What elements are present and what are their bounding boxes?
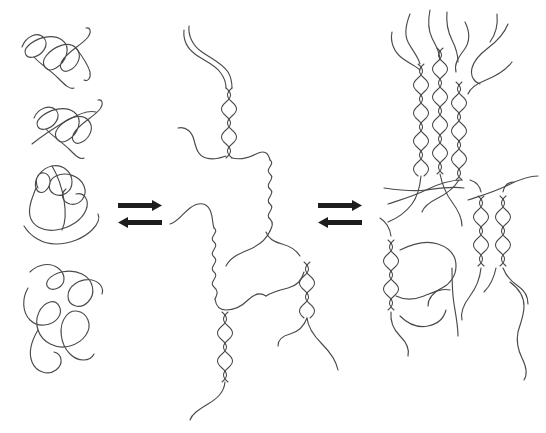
helical-bundle-strand-5 bbox=[474, 196, 489, 266]
diagram-canvas bbox=[0, 0, 546, 433]
random-coil-cluster-2 bbox=[32, 100, 102, 159]
stage-1-random-coils bbox=[22, 28, 103, 373]
helical-bundle-strand-2 bbox=[433, 48, 448, 174]
random-coil-cluster-1 bbox=[22, 28, 90, 89]
stage-3-helical-bundles bbox=[380, 10, 538, 380]
random-coil-cluster-3 bbox=[24, 166, 99, 244]
helical-bundle-strand-1 bbox=[414, 64, 429, 176]
equilibrium-arrow-right bbox=[318, 200, 362, 228]
self-assembly-diagram bbox=[0, 0, 546, 433]
helical-bundle-strand-4 bbox=[384, 240, 399, 310]
single-helix-mid-left bbox=[212, 228, 217, 299]
single-helix-right-upper bbox=[268, 160, 272, 231]
helical-bundle-strand-3 bbox=[452, 82, 467, 180]
equilibrium-arrow-left bbox=[118, 200, 162, 228]
double-helix-bottom-right bbox=[300, 262, 315, 318]
helical-bundle-strand-6 bbox=[496, 196, 511, 266]
double-helix-bottom-left bbox=[218, 312, 233, 382]
double-helix-top bbox=[222, 88, 237, 158]
random-coil-cluster-4 bbox=[24, 265, 103, 373]
stage-2-partial-helices bbox=[170, 26, 338, 420]
